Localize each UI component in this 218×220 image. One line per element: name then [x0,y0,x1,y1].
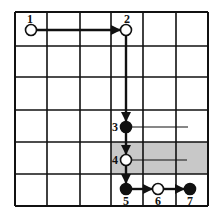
filled-circle-icon [121,184,132,195]
grid [15,12,208,206]
open-circle-icon [153,184,164,195]
node-label: 5 [123,194,129,208]
filled-circle-icon [185,184,196,195]
node-7: 7 [185,184,196,209]
node-label: 4 [112,153,118,167]
node-1: 1 [26,12,37,36]
node-5: 5 [121,184,132,209]
node-2: 2 [121,12,132,36]
node-label: 2 [124,12,130,26]
node-label: 3 [112,120,118,134]
node-label: 6 [155,194,161,208]
node-label: 1 [27,12,33,26]
filled-circle-icon [121,122,132,133]
open-circle-icon [121,155,132,166]
node-label: 7 [187,194,193,208]
open-circle-icon [121,25,132,36]
node-3: 3 [112,120,132,134]
node-6: 6 [153,184,164,209]
open-circle-icon [26,25,37,36]
grid-path-diagram: 1234567 [0,0,218,220]
